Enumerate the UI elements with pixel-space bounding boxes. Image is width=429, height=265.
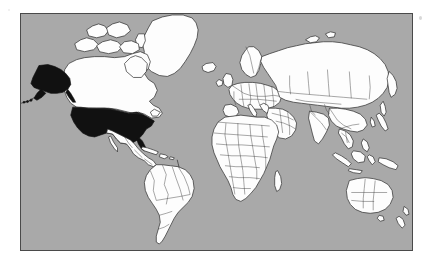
scan-speck-top-right <box>419 16 422 20</box>
aleutian-isle-2 <box>26 101 28 103</box>
world-map-frame <box>20 13 413 251</box>
aleutian-isle-3 <box>23 101 25 103</box>
scan-speck-top-left <box>8 9 10 11</box>
world-map-graphic <box>21 14 412 250</box>
page-canvas <box>0 0 429 265</box>
aleutian-isle-1 <box>30 99 32 101</box>
